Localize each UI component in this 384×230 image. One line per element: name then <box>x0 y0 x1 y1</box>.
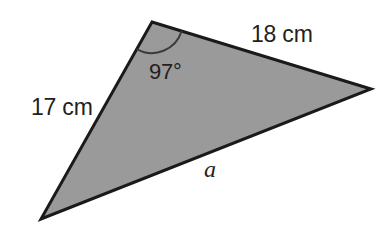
triangle-shape <box>41 22 371 219</box>
angle-measure-label: 97° <box>149 61 182 83</box>
unknown-side-label-a: a <box>204 157 216 181</box>
side-length-label-18cm: 18 cm <box>251 23 313 46</box>
triangle-figure: 18 cm 17 cm 97° a <box>0 0 384 230</box>
side-length-label-17cm: 17 cm <box>31 96 93 119</box>
